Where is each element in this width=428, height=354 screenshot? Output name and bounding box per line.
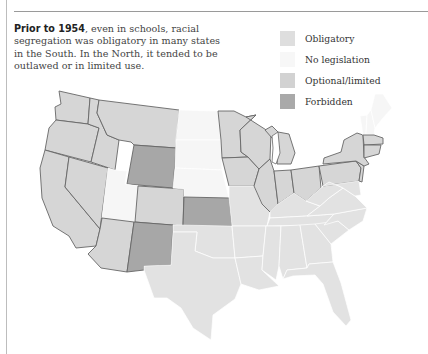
state-new-york: New York [323, 133, 369, 166]
state-kansas: Kansas [183, 197, 232, 226]
state-wyoming: Wyoming [127, 145, 176, 188]
state-south-dakota: South Dakota [175, 140, 222, 170]
state-arkansas: Arkansas [232, 226, 266, 258]
state-massachusetts: Massachusetts [363, 135, 383, 145]
state-florida: Florida [283, 262, 351, 326]
state-maine: Maine [371, 94, 392, 128]
state-connecticut-ri: Connecticut/RI [364, 145, 381, 158]
state-colorado: Colorado [135, 186, 184, 226]
state-washington: Washington [55, 91, 90, 124]
us-map: WashingtonOregonCaliforniaNevadaIdahoMon… [0, 0, 428, 354]
state-north-dakota: North Dakota [176, 110, 221, 140]
state-new-mexico: New Mexico [127, 222, 173, 272]
state-mississippi: Mississippi [262, 226, 281, 280]
